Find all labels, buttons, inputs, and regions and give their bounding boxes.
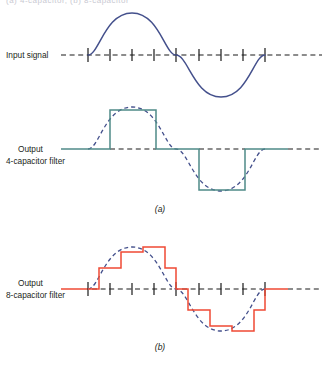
- panel-b: Output 8-capacitor filter (b): [6, 247, 322, 352]
- filter-4-label: 4-capacitor filter: [6, 156, 65, 166]
- input-signal-label: Input signal: [6, 50, 49, 60]
- filter-8-label: 8-capacitor filter: [6, 290, 65, 300]
- 4-capacitor-staircase: [88, 110, 288, 190]
- output-label-a: Output: [18, 144, 44, 154]
- panel-a: Input signal: [6, 13, 322, 97]
- figure-container: (a) 4-capacitor, (b) 8-capacitor Input: [0, 0, 325, 366]
- output-label-b: Output: [18, 278, 44, 288]
- caption-a: (a): [155, 204, 166, 214]
- caption-b: (b): [155, 342, 166, 352]
- waveform-figure-svg: Input signal Output 4-capacitor filter (…: [0, 0, 325, 366]
- cropped-header-text: (a) 4-capacitor, (b) 8-capacitor: [6, 0, 129, 5]
- panel-a-output: Output 4-capacitor filter (a): [6, 107, 322, 214]
